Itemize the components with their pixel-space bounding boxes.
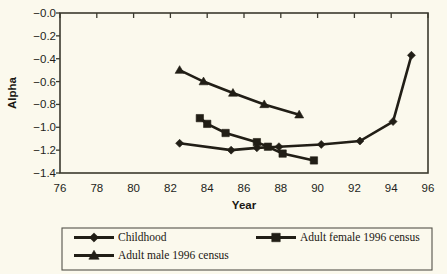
x-tick-label: 80: [127, 182, 140, 194]
legend-marker-square: [272, 233, 280, 241]
data-point-square: [264, 143, 271, 150]
data-point-square: [310, 157, 317, 164]
data-point-square: [279, 150, 286, 157]
y-axis-title: Alpha: [6, 76, 18, 109]
legend-label: Adult male 1996 census: [118, 249, 229, 261]
data-point-square: [222, 129, 229, 136]
chart-container: −0.0−0.2−0.4−0.6−0.8−1.0−1.2−1.4 7678808…: [0, 0, 447, 274]
x-tick-label: 82: [164, 182, 177, 194]
data-point-square: [253, 138, 260, 145]
y-tick-label: −1.4: [33, 167, 56, 179]
x-tick-label: 86: [238, 182, 251, 194]
y-tick-label: −0.6: [33, 76, 56, 88]
data-point-square: [196, 114, 203, 121]
y-tick-label: −1.0: [33, 121, 56, 133]
x-tick-label: 76: [54, 182, 67, 194]
x-tick-label: 96: [422, 182, 435, 194]
x-tick-label: 94: [385, 182, 398, 194]
x-tick-label: 90: [311, 182, 324, 194]
legend-label: Childhood: [118, 231, 167, 243]
y-tick-label: −0.4: [33, 53, 56, 65]
alpha-vs-year-line-chart: −0.0−0.2−0.4−0.6−0.8−1.0−1.2−1.4 7678808…: [0, 0, 447, 274]
x-tick-label: 84: [201, 182, 214, 194]
x-axis-title: Year: [232, 199, 257, 211]
y-tick-label: −0.2: [33, 30, 56, 42]
y-tick-label: −0.8: [33, 98, 56, 110]
x-tick-label: 92: [348, 182, 361, 194]
y-tick-label: −0.0: [33, 7, 56, 19]
x-tick-label: 78: [90, 182, 103, 194]
data-point-square: [204, 120, 211, 127]
x-tick-label: 88: [274, 182, 287, 194]
legend-label: Adult female 1996 census: [300, 231, 420, 243]
y-tick-label: −1.2: [33, 144, 56, 156]
